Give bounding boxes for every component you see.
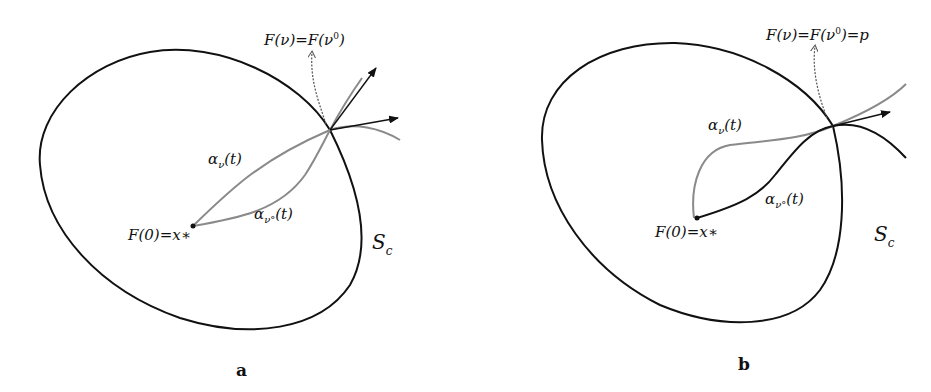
label-rhs: F(ν: [810, 26, 835, 44]
label-eq: =: [295, 31, 308, 49]
alpha-arg: (t): [786, 190, 804, 208]
level-set-curve: [40, 50, 362, 329]
label-rhs: F(ν: [308, 31, 333, 49]
alpha-v-label: αν(t): [708, 118, 742, 136]
panel-b: [542, 43, 906, 322]
surface-label: Sc: [874, 224, 894, 249]
trajectory-alpha-v: [193, 126, 400, 226]
intersection-label: F(ν)=F(ν0): [264, 32, 345, 48]
alpha-base: α: [254, 205, 264, 223]
alpha-sub: ν°: [264, 214, 275, 225]
surface-sub: c: [386, 244, 393, 258]
surface-sub: c: [888, 236, 895, 250]
alpha-sub: ν°: [775, 199, 786, 210]
intersection-label: F(ν)=F(ν0)=p: [766, 27, 869, 43]
origin-point: [191, 224, 196, 229]
pointer-arrow: [814, 46, 827, 118]
label-lhs: F(ν): [766, 26, 797, 44]
alpha-arg: (t): [275, 205, 293, 223]
origin-point: [695, 216, 700, 221]
alpha-arg: (t): [724, 116, 742, 134]
origin-label: F(0)=x∗: [128, 228, 191, 243]
alpha-v-label: αν(t): [208, 152, 242, 170]
tangent-arrow-upper: [330, 68, 376, 130]
origin-label: F(0)=x∗: [655, 225, 718, 240]
surface-base: S: [372, 230, 386, 254]
panel-label-a: a: [236, 360, 247, 380]
alpha-base: α: [765, 190, 775, 208]
alpha-base: α: [708, 116, 718, 134]
surface-base: S: [874, 222, 888, 246]
label-close: ): [339, 31, 345, 49]
alpha-arg: (t): [224, 150, 242, 168]
label-close: )=p: [841, 26, 869, 44]
label-lhs: F(ν): [264, 31, 295, 49]
surface-label: Sc: [372, 232, 392, 257]
alpha-v0-label: αν°(t): [765, 192, 804, 210]
alpha-base: α: [208, 150, 218, 168]
panel-label-b: b: [738, 354, 750, 374]
tangent-arrow-right: [330, 118, 398, 130]
panel-a: [40, 50, 400, 329]
label-eq: =: [797, 26, 810, 44]
figure: F(ν)=F(ν0) αν(t) αν°(t) F(0)=x∗ Sc a F(ν…: [0, 0, 931, 392]
level-set-curve: [542, 43, 842, 322]
alpha-v0-label: αν°(t): [254, 207, 293, 225]
